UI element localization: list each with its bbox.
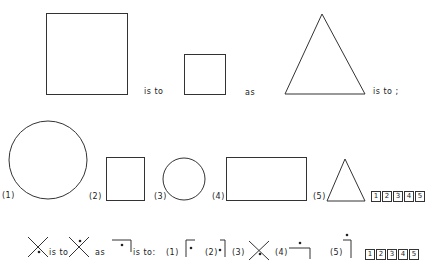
p2-answer-box-5[interactable]: 5 [409,249,419,260]
option2-small-square [107,158,145,201]
p2-connector-is-to: is to [49,248,68,257]
p1-option4-label: (4) [212,192,225,201]
p2-answer-box-3[interactable]: 3 [387,249,397,260]
option5-vertical-dot-above [343,234,351,258]
p1-answer-box-1[interactable]: 1 [371,191,381,202]
p1-option1-label: (1) [2,191,15,200]
p1-answer-box-3[interactable]: 3 [393,191,403,202]
stem-x-dot-above [69,237,89,257]
p1-option3-label: (3) [154,192,167,201]
option3-x-dot-below [249,241,269,260]
p2-connector-is-to-end: is to: [133,248,156,257]
p1-answer-box-4[interactable]: 4 [404,191,414,202]
option5-small-triangle [327,159,365,201]
p1-answer-box-2[interactable]: 2 [382,191,392,202]
stem-bracket-dot-below [112,240,131,252]
stem-x-dot-below [28,237,48,257]
p2-answer-boxes: 1 2 3 4 5 [365,249,420,260]
stem-large-triangle [285,14,365,94]
p2-option2-label: (2) [205,248,218,257]
p2-answer-box-4[interactable]: 4 [398,249,408,260]
p2-answer-box-2[interactable]: 2 [376,249,386,260]
p1-answer-box-5[interactable]: 5 [415,191,425,202]
p2-option4-label: (4) [275,248,288,257]
p2-option5-label: (5) [330,248,343,257]
option1-large-circle [9,121,87,199]
option1-bracket-left-dot [186,240,195,257]
p1-connector-is-to: is to [144,87,163,96]
option3-small-circle [163,158,205,200]
p1-option5-label: (5) [313,192,326,201]
stem-large-square [47,14,128,95]
option4-bracket-dot-above [289,242,310,259]
option4-rectangle [227,158,307,201]
p2-answer-box-1[interactable]: 1 [365,249,375,260]
p1-connector-as: as [245,88,255,97]
p1-answer-boxes: 1 2 3 4 5 [371,191,426,202]
p1-option2-label: (2) [89,192,102,201]
stem-small-square [185,55,226,95]
p1-connector-is-to-end: is to ; [373,87,399,96]
p2-connector-as: as [95,248,105,257]
option2-bracket-right-dot [219,240,225,257]
p2-option3-label: (3) [232,248,245,257]
p2-option1-label: (1) [166,248,179,257]
